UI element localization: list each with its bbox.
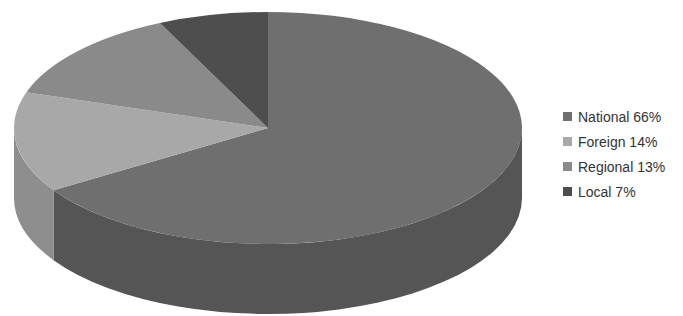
legend-item-local: Local 7% [563,179,665,204]
legend-label-regional: Regional 13% [578,159,665,175]
legend-item-regional: Regional 13% [563,154,665,179]
pie-chart-3d [0,0,540,316]
legend-label-foreign: Foreign 14% [578,134,657,150]
legend-swatch-national [563,112,572,121]
legend-swatch-foreign [563,137,572,146]
legend: National 66% Foreign 14% Regional 13% Lo… [563,104,665,204]
legend-swatch-regional [563,162,572,171]
legend-label-local: Local 7% [578,184,636,200]
legend-item-foreign: Foreign 14% [563,129,665,154]
legend-item-national: National 66% [563,104,665,129]
legend-swatch-local [563,187,572,196]
legend-label-national: National 66% [578,109,661,125]
